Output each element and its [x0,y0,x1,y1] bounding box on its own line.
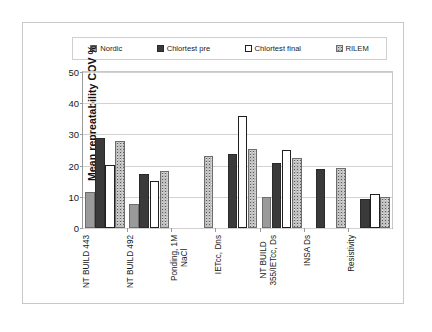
bar-chlortest-pre[interactable] [95,138,105,228]
x-axis-tick-mark [304,228,305,232]
legend-label-chlortest-pre: Chlortest pre [167,44,210,53]
bar-group [171,72,215,228]
bar-chlortest-pre[interactable] [316,169,326,228]
bar-rilem[interactable] [380,197,390,228]
bar-nordic[interactable] [85,192,95,228]
x-axis-category-label: INSA Ds [303,235,347,266]
bars-layer [83,72,392,228]
legend-swatch-rilem [336,45,343,52]
bar-rilem[interactable] [336,168,346,228]
bar-group [260,72,304,228]
bar-chlortest-final[interactable] [238,116,248,228]
bar-rilem[interactable] [204,156,214,228]
legend-item-rilem[interactable]: RILEM [336,44,369,53]
x-axis-category-label: NT BUILD 355/IETcc, Ds [259,235,303,286]
x-axis-category-label: NT BUILD 492 [126,235,170,288]
y-axis-tick-label: 20 [68,160,79,171]
bar-chlortest-pre[interactable] [228,154,238,228]
bar-rilem[interactable] [292,158,302,228]
bar-group [304,72,348,228]
bar-rilem[interactable] [160,171,170,228]
legend-swatch-chlortest-final [245,45,252,52]
bar-chlortest-pre[interactable] [139,174,149,228]
x-axis-category-label: NT BUILD 443 [82,235,126,288]
legend-label-rilem: RILEM [346,44,369,53]
gridline [83,228,392,229]
x-axis-category-label: Ponding, 1M NaCl [170,235,214,281]
bar-nordic[interactable] [129,204,139,228]
bar-chlortest-pre[interactable] [272,163,282,228]
x-axis-tick-mark [260,228,261,232]
bar-group [348,72,392,228]
bar-group [215,72,259,228]
bar-group [127,72,171,228]
bar-chlortest-final[interactable] [282,150,292,228]
legend-swatch-chlortest-pre [157,45,164,52]
x-axis-tick-mark [348,228,349,232]
bar-group [83,72,127,228]
legend-item-chlortest-pre[interactable]: Chlortest pre [157,44,210,53]
y-axis-tick-label: 40 [68,98,79,109]
y-axis-tick-label: 10 [68,191,79,202]
bar-chlortest-final[interactable] [370,194,380,228]
legend-item-chlortest-final[interactable]: Chlortest final [245,44,301,53]
x-axis-tick-mark [215,228,216,232]
bar-chlortest-pre[interactable] [360,199,370,228]
chart-legend: Nordic Chlortest pre Chlortest final RIL… [72,37,387,60]
x-axis-category-label: Resistivity [347,235,391,272]
plot-area: 01020304050 [82,71,393,229]
y-axis-tick-label: 50 [68,67,79,78]
x-axis-category-label: IETcc, Dns [214,235,258,274]
chart-frame: Nordic Chlortest pre Chlortest final RIL… [22,22,404,304]
legend-label-nordic: Nordic [100,44,122,53]
bar-nordic[interactable] [262,197,272,228]
y-axis-tick-label: 0 [74,223,79,234]
bar-chlortest-final[interactable] [105,165,115,228]
x-axis-category-labels: NT BUILD 443NT BUILD 492Ponding, 1M NaCl… [82,235,393,321]
x-axis-tick-mark [127,228,128,232]
x-axis-tick-mark [171,228,172,232]
y-axis-tick-label: 30 [68,129,79,140]
legend-label-chlortest-final: Chlortest final [255,44,301,53]
bar-chlortest-final[interactable] [150,181,160,228]
bar-rilem[interactable] [248,149,258,228]
y-axis-tick-mark [80,228,83,229]
bar-rilem[interactable] [115,141,125,228]
